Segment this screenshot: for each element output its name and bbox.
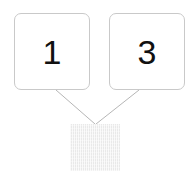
part-value-left: 1 bbox=[43, 35, 62, 69]
connector-left-to-whole bbox=[56, 90, 95, 124]
connector-right-to-whole bbox=[96, 90, 139, 124]
number-bond-diagram: 1 3 bbox=[0, 0, 192, 175]
whole-box-shaded[interactable] bbox=[70, 124, 120, 171]
part-value-right: 3 bbox=[138, 35, 157, 69]
part-box-left[interactable]: 1 bbox=[14, 13, 90, 90]
part-box-right[interactable]: 3 bbox=[109, 13, 185, 90]
